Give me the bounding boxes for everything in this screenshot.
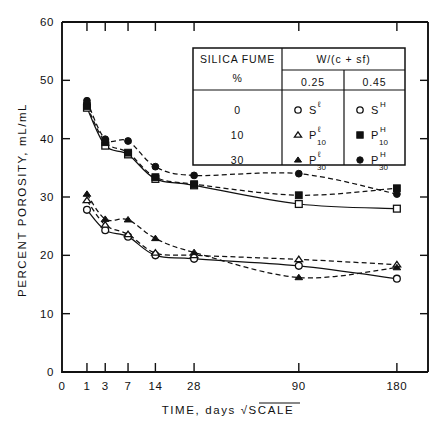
data-point-marker <box>102 136 109 143</box>
porosity-chart-figure: 01020304050600137142890180 SILICA FUME%W… <box>0 0 447 439</box>
legend-symbol-sub-low: 30 <box>317 163 326 172</box>
legend-symbol-sup-high: H <box>380 150 386 159</box>
y-tick-label: 0 <box>47 366 54 378</box>
legend-header-percent: % <box>232 72 242 84</box>
y-tick-label: 10 <box>40 308 54 320</box>
x-tick-label: 14 <box>148 380 162 392</box>
legend-header-045: 0.45 <box>362 76 386 88</box>
y-tick-label: 60 <box>40 16 54 28</box>
y-tick-label: 20 <box>40 249 54 261</box>
y-tick-label: 40 <box>40 133 54 145</box>
data-point-marker <box>125 138 132 145</box>
legend-symbol-sup-low: ℓ <box>317 150 321 159</box>
legend-row-pct: 30 <box>231 154 244 166</box>
legend-symbol-label-high: S <box>371 104 378 116</box>
series-curve <box>87 210 397 279</box>
x-tick-label: 90 <box>292 380 306 392</box>
x-axis-title: TIME, days √SCALE <box>162 404 295 416</box>
legend-symbol-label-high: P <box>371 154 378 166</box>
legend-header-wcsf: W/(c + sf) <box>316 53 370 65</box>
data-point-marker <box>295 170 302 177</box>
x-tick-label: 180 <box>386 380 407 392</box>
legend-symbol-label-low: P <box>309 129 316 141</box>
legend-table: SILICA FUME%W/(c + sf)0.250.450SℓSH10Pℓ1… <box>193 48 405 172</box>
data-point-marker <box>191 181 198 188</box>
data-point-marker <box>295 256 303 261</box>
data-point-marker <box>295 262 302 269</box>
data-point-marker <box>393 191 400 198</box>
legend-symbol-sub-low: 10 <box>317 138 326 147</box>
y-tick-label: 50 <box>40 74 54 86</box>
legend-row-pct: 10 <box>231 129 244 141</box>
legend-symbol-label-low: P <box>309 154 316 166</box>
data-point-marker <box>393 205 400 212</box>
data-point-marker <box>124 231 132 236</box>
legend-symbol-sup-high: H <box>380 125 386 134</box>
legend-symbol-label-high: P <box>371 129 378 141</box>
data-point-marker <box>152 174 159 181</box>
legend-marker-high <box>357 107 363 113</box>
y-tick-label: 30 <box>40 191 54 203</box>
legend-header-025: 0.25 <box>301 76 325 88</box>
data-point-marker <box>102 227 109 234</box>
legend-symbol-sup-low: ℓ <box>317 100 321 109</box>
data-point-marker <box>84 206 91 213</box>
data-point-marker <box>84 97 91 104</box>
x-tick-label: 28 <box>187 380 201 392</box>
legend-marker-high <box>357 157 363 163</box>
x-tick-label: 0 <box>59 380 66 392</box>
data-point-marker <box>152 250 160 255</box>
data-point-marker <box>191 172 198 179</box>
legend-symbol-sup-low: ℓ <box>317 125 321 134</box>
data-point-marker <box>125 149 132 156</box>
legend-symbol-label-low: S <box>309 104 316 116</box>
chart-canvas: 01020304050600137142890180 SILICA FUME%W… <box>0 0 447 439</box>
legend-row-pct: 0 <box>234 104 241 116</box>
series-curve <box>87 201 397 265</box>
data-point-marker <box>295 201 302 208</box>
x-tick-label: 1 <box>83 380 90 392</box>
legend-marker-high <box>357 132 363 138</box>
data-point-marker <box>152 235 160 240</box>
data-point-marker <box>393 275 400 282</box>
x-tick-label: 3 <box>102 380 109 392</box>
legend-symbol-sup-high: H <box>380 100 386 109</box>
legend-symbol-sub-high: 30 <box>379 163 388 172</box>
legend-header-silica-fume: SILICA FUME <box>200 53 275 65</box>
legend-marker-low <box>295 107 301 113</box>
data-point-marker <box>83 191 91 196</box>
y-axis-title: PERCENT POROSITY, mL/mL <box>16 103 28 297</box>
legend-symbol-sub-high: 10 <box>379 138 388 147</box>
series-curve <box>87 194 397 278</box>
data-point-marker <box>152 163 159 170</box>
data-point-marker <box>295 192 302 199</box>
x-tick-label: 7 <box>125 380 132 392</box>
